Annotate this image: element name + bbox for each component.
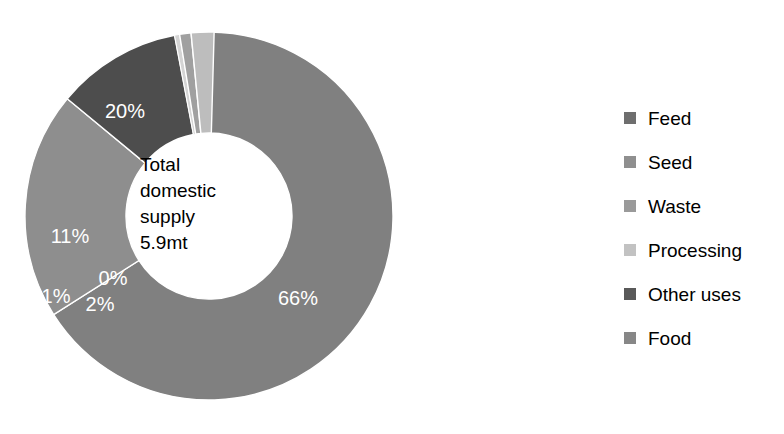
donut-slice-value-label: 2% bbox=[86, 293, 115, 315]
legend-label-processing: Processing bbox=[648, 241, 742, 260]
legend-item-waste[interactable]: Waste bbox=[624, 184, 784, 228]
center-line-4: 5.9mt bbox=[140, 230, 280, 256]
legend-label-food: Food bbox=[648, 329, 691, 348]
legend-swatch-food bbox=[624, 332, 636, 344]
legend-swatch-seed bbox=[624, 156, 636, 168]
donut-center-label: Total domestic supply 5.9mt bbox=[140, 152, 280, 256]
legend-label-other-uses: Other uses bbox=[648, 285, 741, 304]
legend-label-waste: Waste bbox=[648, 197, 701, 216]
legend-item-other-uses[interactable]: Other uses bbox=[624, 272, 784, 316]
center-line-2: domestic bbox=[140, 178, 280, 204]
center-line-3: supply bbox=[140, 204, 280, 230]
donut-slice-value-label: 0% bbox=[99, 267, 128, 289]
donut-slice-value-label: 20% bbox=[105, 100, 145, 122]
donut-slice-value-label: 11% bbox=[51, 225, 90, 247]
legend-swatch-other-uses bbox=[624, 288, 636, 300]
chart-legend: Feed Seed Waste Processing Other uses Fo… bbox=[624, 96, 784, 360]
legend-item-seed[interactable]: Seed bbox=[624, 140, 784, 184]
donut-slice-value-label: 1% bbox=[42, 285, 71, 307]
legend-item-feed[interactable]: Feed bbox=[624, 96, 784, 140]
donut-slice-value-label: 66% bbox=[278, 287, 318, 309]
legend-item-food[interactable]: Food bbox=[624, 316, 784, 360]
legend-label-seed: Seed bbox=[648, 153, 692, 172]
center-line-1: Total bbox=[140, 152, 280, 178]
legend-item-processing[interactable]: Processing bbox=[624, 228, 784, 272]
legend-swatch-waste bbox=[624, 200, 636, 212]
legend-swatch-processing bbox=[624, 244, 636, 256]
legend-label-feed: Feed bbox=[648, 109, 691, 128]
legend-swatch-feed bbox=[624, 112, 636, 124]
donut-chart: 66%20%11%0%1%2% Total domestic supply 5.… bbox=[0, 0, 430, 434]
